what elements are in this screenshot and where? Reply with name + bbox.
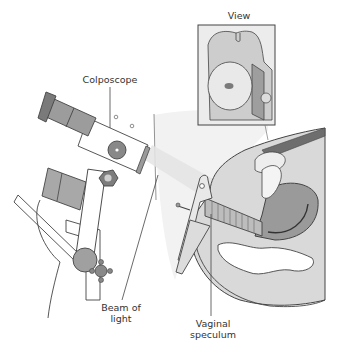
speculum-screw-head <box>176 203 180 207</box>
label-colposcope-text: Colposcope <box>83 74 138 85</box>
label-vaginal-speculum: Vaginal speculum <box>188 318 238 340</box>
view-cervical-os <box>225 83 234 89</box>
beam-leader <box>122 175 158 300</box>
label-beam-line1: Beam of <box>96 302 146 313</box>
label-beam-of-light: Beam of light <box>96 302 146 324</box>
focus-knob-center <box>115 148 118 151</box>
label-colposcope: Colposcope <box>80 74 140 85</box>
diagram-illustration <box>0 0 338 350</box>
view-knob <box>261 93 271 103</box>
stand-joint-ball <box>73 248 97 272</box>
label-beam-line2: light <box>96 313 146 324</box>
label-speculum-line2: speculum <box>188 329 238 340</box>
speculum-pivot <box>200 184 205 189</box>
lamp-box <box>42 168 86 210</box>
label-view-text: View <box>228 10 251 21</box>
colposcopy-diagram: View Colposcope Beam of light Vaginal sp… <box>0 0 338 350</box>
body-pin-1 <box>114 115 118 119</box>
body-pin-2 <box>130 124 134 128</box>
view-side-blade <box>252 64 264 120</box>
label-speculum-line1: Vaginal <box>188 318 238 329</box>
label-view: View <box>224 10 254 21</box>
